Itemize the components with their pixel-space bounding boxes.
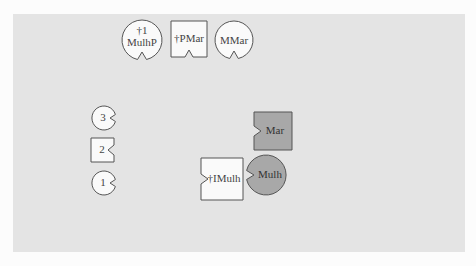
node-pmar-shape[interactable]	[171, 21, 207, 57]
node-2-shape[interactable]	[91, 138, 114, 162]
node-mar-shape[interactable]	[254, 112, 292, 150]
node-1-shape[interactable]	[92, 171, 115, 195]
node-mmar-shape[interactable]	[215, 21, 253, 59]
node-1mulhp-shape[interactable]	[122, 20, 162, 59]
diagram-shapes	[0, 0, 476, 266]
node-mulh-shape[interactable]	[247, 155, 286, 195]
node-imulh-shape[interactable]	[201, 158, 243, 200]
diagram-canvas: †1 MulhP †PMar MMar 3 2 1 Mar †IMulh Mul…	[0, 0, 476, 266]
node-3-shape[interactable]	[92, 106, 115, 130]
